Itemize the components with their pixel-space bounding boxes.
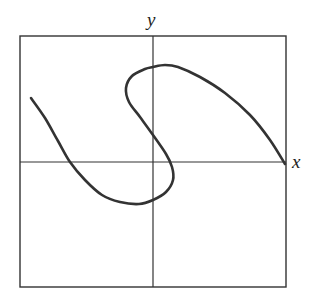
- plot-area: [0, 0, 314, 305]
- curve-series: [31, 65, 285, 204]
- x-axis-label: x: [292, 152, 300, 171]
- y-axis-label: y: [147, 10, 155, 29]
